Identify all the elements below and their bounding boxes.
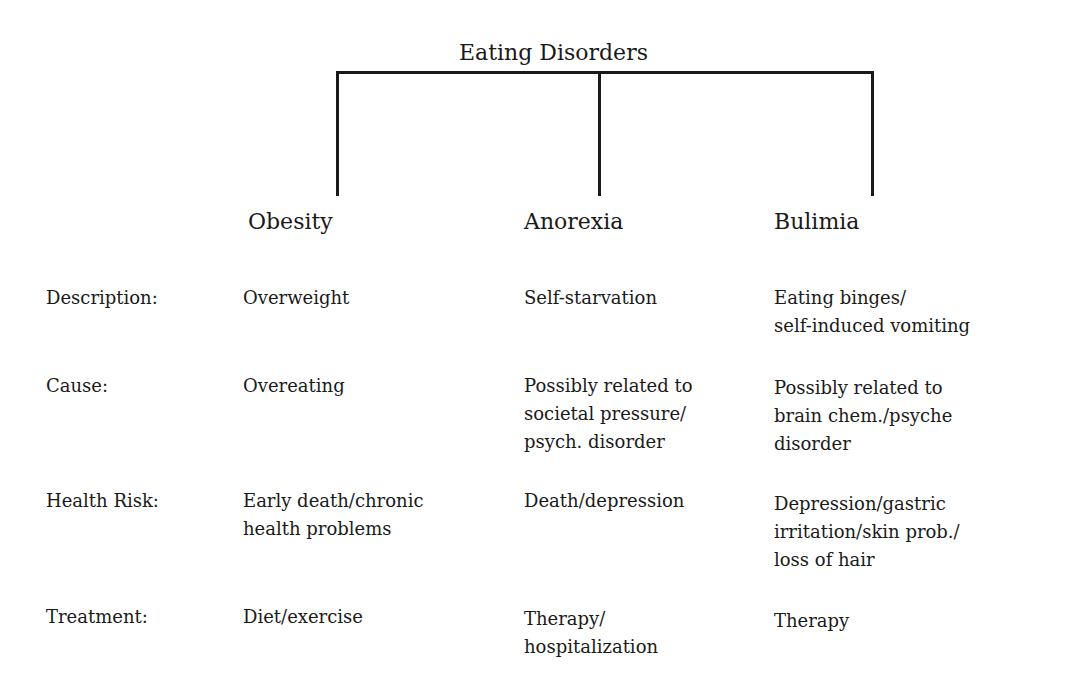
cell-description-anorexia: Self-starvation — [524, 284, 657, 312]
column-heading-obesity: Obesity — [248, 209, 333, 235]
cell-health-risk-obesity: Early death/chronic health problems — [243, 487, 423, 543]
diagram-title: Eating Disorders — [459, 40, 648, 66]
tree-branch-bulimia — [871, 71, 874, 196]
tree-branch-anorexia — [598, 71, 601, 196]
cell-treatment-bulimia: Therapy — [774, 607, 849, 635]
cell-health-risk-anorexia: Death/depression — [524, 487, 684, 515]
tree-branch-obesity — [336, 71, 339, 196]
cell-description-obesity: Overweight — [243, 284, 349, 312]
cell-health-risk-bulimia: Depression/gastric irritation/skin prob.… — [774, 490, 960, 574]
cell-cause-bulimia: Possibly related to brain chem./psyche d… — [774, 374, 952, 458]
cell-treatment-obesity: Diet/exercise — [243, 603, 363, 631]
cell-cause-obesity: Overeating — [243, 372, 345, 400]
row-label-cause: Cause: — [46, 372, 108, 400]
row-label-treatment: Treatment: — [46, 603, 148, 631]
cell-treatment-anorexia: Therapy/ hospitalization — [524, 605, 658, 661]
row-label-health-risk: Health Risk: — [46, 487, 159, 515]
row-label-description: Description: — [46, 284, 158, 312]
tree-horizontal-connector — [336, 71, 874, 74]
cell-cause-anorexia: Possibly related to societal pressure/ p… — [524, 372, 693, 456]
cell-description-bulimia: Eating binges/ self-induced vomiting — [774, 284, 970, 340]
column-heading-bulimia: Bulimia — [774, 209, 859, 235]
column-heading-anorexia: Anorexia — [524, 209, 623, 235]
